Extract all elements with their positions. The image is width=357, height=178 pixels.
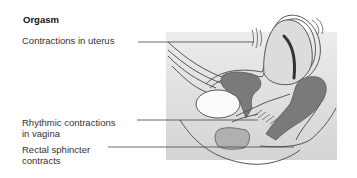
uterus [264, 20, 313, 85]
rectal-sphincter [215, 128, 250, 150]
anatomical-illustration [0, 0, 357, 178]
